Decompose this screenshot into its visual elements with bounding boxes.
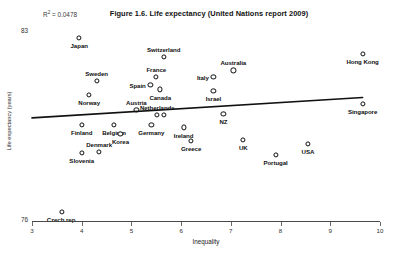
x-axis-label: Inequality [32, 238, 380, 245]
x-tick-label-8: 8 [279, 227, 282, 234]
figure-container: R2 = 0.0478 Figure 1.6. Life expectancy … [0, 0, 396, 254]
x-tick-label-5: 5 [130, 227, 133, 234]
x-tick-4 [82, 222, 83, 226]
x-tick-5 [131, 222, 132, 226]
trendline [0, 0, 396, 254]
x-tick-3 [32, 222, 33, 226]
x-tick-label-4: 4 [80, 227, 83, 234]
x-tick-label-9: 9 [329, 227, 332, 234]
x-tick-8 [281, 222, 282, 226]
x-tick-label-10: 10 [377, 227, 384, 234]
x-tick-label-7: 7 [229, 227, 232, 234]
x-tick-9 [330, 222, 331, 226]
x-tick-6 [181, 222, 182, 226]
x-axis-line [32, 221, 380, 222]
x-tick-label-6: 6 [179, 227, 182, 234]
x-tick-10 [380, 222, 381, 226]
x-tick-7 [231, 222, 232, 226]
x-tick-label-3: 3 [30, 227, 33, 234]
